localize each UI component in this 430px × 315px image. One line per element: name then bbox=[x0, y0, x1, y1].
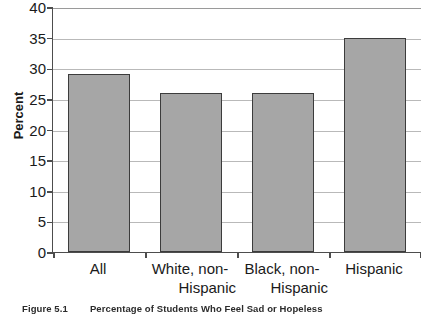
y-tick-label-40: 40 bbox=[6, 0, 46, 15]
y-tick-label-20: 20 bbox=[6, 123, 46, 138]
x-tick-label-line1: All bbox=[52, 259, 144, 278]
x-tick-label-line2: Hispanic bbox=[144, 278, 236, 297]
y-tick-label-5: 5 bbox=[6, 214, 46, 229]
y-tick-label-35: 35 bbox=[6, 31, 46, 46]
y-tick-label-0: 0 bbox=[6, 245, 46, 260]
y-tick-label-25: 25 bbox=[6, 92, 46, 107]
y-tick-mark-40 bbox=[47, 7, 53, 9]
x-tick-label: All bbox=[52, 259, 144, 278]
x-tick-label-line1: White, non- bbox=[152, 260, 229, 277]
x-axis-separator bbox=[145, 252, 147, 258]
y-tick-mark-10 bbox=[47, 191, 53, 193]
x-axis-separator-end bbox=[420, 252, 422, 258]
x-tick-label: Black, non-Hispanic bbox=[236, 259, 328, 297]
gridline-40 bbox=[53, 8, 421, 9]
x-tick-label-line1: Hispanic bbox=[328, 259, 420, 278]
x-tick-label: White, non-Hispanic bbox=[144, 259, 236, 297]
bar bbox=[252, 93, 314, 252]
x-tick-label-line1: Black, non- bbox=[244, 260, 319, 277]
x-tick-label-line2: Hispanic bbox=[236, 278, 328, 297]
plot-area bbox=[52, 8, 420, 253]
figure-caption-text: Percentage of Students Who Feel Sad or H… bbox=[90, 303, 323, 314]
bar bbox=[160, 93, 222, 252]
y-tick-label-15: 15 bbox=[6, 153, 46, 168]
figure-caption-number: Figure 5.1 bbox=[22, 303, 68, 314]
y-tick-mark-15 bbox=[47, 160, 53, 162]
y-tick-mark-30 bbox=[47, 69, 53, 71]
bar bbox=[344, 38, 406, 252]
x-tick-label: Hispanic bbox=[328, 259, 420, 278]
figure-container: Percent 0510152025303540 AllWhite, non-H… bbox=[0, 0, 430, 315]
x-axis-tick-labels: AllWhite, non-HispanicBlack, non-Hispani… bbox=[52, 259, 420, 301]
y-tick-mark-5 bbox=[47, 222, 53, 224]
y-tick-label-30: 30 bbox=[6, 61, 46, 76]
x-axis-separator-origin bbox=[53, 252, 55, 258]
x-axis-separator bbox=[237, 252, 239, 258]
y-tick-mark-25 bbox=[47, 99, 53, 101]
bar bbox=[68, 74, 130, 252]
y-tick-label-10: 10 bbox=[6, 184, 46, 199]
y-tick-mark-35 bbox=[47, 38, 53, 40]
y-axis-title: Percent bbox=[11, 76, 26, 156]
y-tick-mark-20 bbox=[47, 130, 53, 132]
figure-caption: Figure 5.1Percentage of Students Who Fee… bbox=[22, 303, 323, 314]
x-axis-separator bbox=[329, 252, 331, 258]
